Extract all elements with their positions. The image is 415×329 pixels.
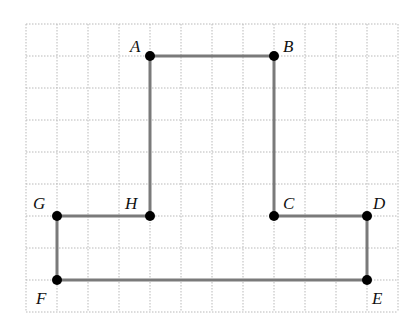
vertex-E	[362, 275, 372, 285]
vertex-F	[52, 275, 62, 285]
vertex-label-B: B	[283, 37, 294, 56]
vertex-label-F: F	[35, 289, 47, 308]
vertex-label-G: G	[33, 194, 45, 213]
vertex-label-E: E	[371, 289, 383, 308]
vertex-labels: ABCDEFGH	[33, 37, 386, 308]
vertex-C	[269, 211, 279, 221]
vertex-G	[52, 211, 62, 221]
grid	[26, 24, 398, 312]
vertex-label-D: D	[372, 194, 386, 213]
vertex-H	[145, 211, 155, 221]
vertex-B	[269, 51, 279, 61]
vertex-D	[362, 211, 372, 221]
vertex-label-H: H	[124, 194, 139, 213]
vertex-label-A: A	[129, 37, 141, 56]
vertex-label-C: C	[283, 194, 295, 213]
polygon-diagram: ABCDEFGH	[0, 0, 415, 329]
vertex-A	[145, 51, 155, 61]
